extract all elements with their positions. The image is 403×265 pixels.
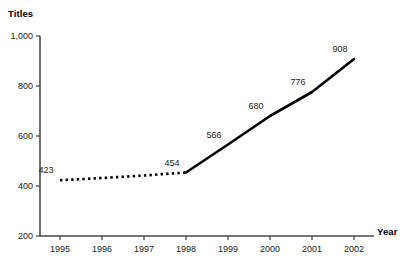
data-point-label: 566: [206, 130, 221, 140]
x-tick-label: 2002: [344, 244, 364, 254]
y-tick-label: 200: [18, 231, 33, 241]
data-point-label: 423: [38, 165, 53, 175]
y-tick-label: 800: [18, 81, 33, 91]
series-line-actual: [186, 59, 354, 173]
y-tick-label: 400: [18, 181, 33, 191]
x-tick-label: 1995: [50, 244, 70, 254]
data-point-label: 908: [332, 44, 347, 54]
x-tick-label: 2001: [302, 244, 322, 254]
data-point-label: 454: [164, 158, 179, 168]
x-tick-label: 1996: [92, 244, 112, 254]
series-line-estimated: [60, 173, 186, 181]
x-tick-label: 1999: [218, 244, 238, 254]
data-series-layer: [60, 59, 354, 180]
x-tick-label: 1997: [134, 244, 154, 254]
data-point-label: 776: [290, 77, 305, 87]
plot-area: [0, 0, 403, 265]
x-tick-label: 1998: [176, 244, 196, 254]
line-chart: Titles Year 2004006008001,000 1995199619…: [0, 0, 403, 265]
data-point-label: 680: [248, 101, 263, 111]
y-tick-label: 1,000: [10, 31, 33, 41]
y-tick-label: 600: [18, 131, 33, 141]
x-tick-label: 2000: [260, 244, 280, 254]
